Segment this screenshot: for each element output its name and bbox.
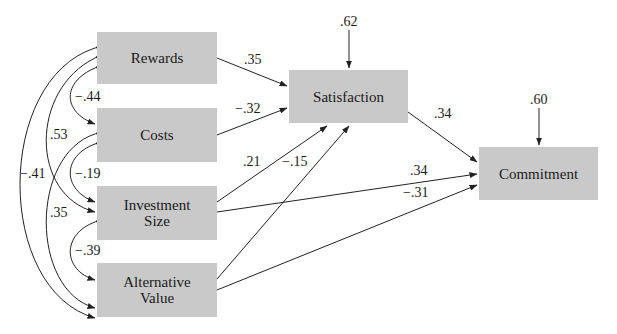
node-alternative-value-label-2: Value (140, 290, 174, 306)
corr-costs-alternative (46, 134, 95, 308)
path-alternative-commitment (217, 185, 477, 290)
node-commitment: Commitment (479, 147, 598, 200)
corr-rewards-costs-label: −.44 (75, 90, 100, 104)
coef-costs-satisfaction: −.32 (235, 102, 260, 116)
error-commitment-label: .60 (530, 93, 548, 107)
coef-satisfaction-commitment: .34 (434, 107, 452, 121)
node-satisfaction-label: Satisfaction (313, 89, 384, 105)
node-investment-size-label-1: Investment (124, 197, 191, 213)
node-alternative-value: Alternative Value (97, 263, 217, 317)
node-commitment-label: Commitment (499, 166, 578, 182)
corr-investment-alternative-label: −.39 (75, 244, 100, 258)
node-costs-label: Costs (140, 127, 173, 143)
node-rewards: Rewards (97, 32, 217, 84)
corr-costs-investment-label: −.19 (75, 167, 100, 181)
node-satisfaction: Satisfaction (289, 70, 408, 123)
node-investment-size: Investment Size (97, 186, 217, 240)
corr-rewards-investment-label: .53 (50, 128, 68, 142)
path-investment-satisfaction (217, 126, 327, 202)
path-diagram: Rewards Costs Investment Size Alternativ… (0, 0, 617, 334)
coef-investment-commitment: .34 (410, 164, 428, 178)
corr-costs-alternative-label: .35 (50, 206, 68, 220)
coef-alternative-commitment: −.31 (403, 186, 428, 200)
coef-alternative-satisfaction: −.15 (282, 155, 307, 169)
node-investment-size-label-2: Size (144, 213, 170, 229)
coef-rewards-satisfaction: .35 (244, 53, 262, 67)
path-investment-commitment (217, 174, 477, 212)
node-rewards-label: Rewards (131, 50, 184, 66)
corr-rewards-alternative-label: −.41 (20, 167, 45, 181)
error-satisfaction-label: .62 (340, 15, 358, 29)
coef-investment-satisfaction: .21 (243, 155, 261, 169)
node-costs: Costs (97, 108, 217, 162)
node-alternative-value-label-1: Alternative (123, 274, 190, 290)
